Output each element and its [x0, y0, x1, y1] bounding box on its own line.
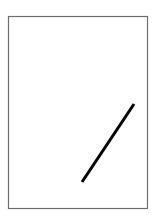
diagram-svg	[0, 0, 161, 217]
diagonal-line	[82, 104, 134, 182]
drawing-canvas	[0, 0, 161, 217]
